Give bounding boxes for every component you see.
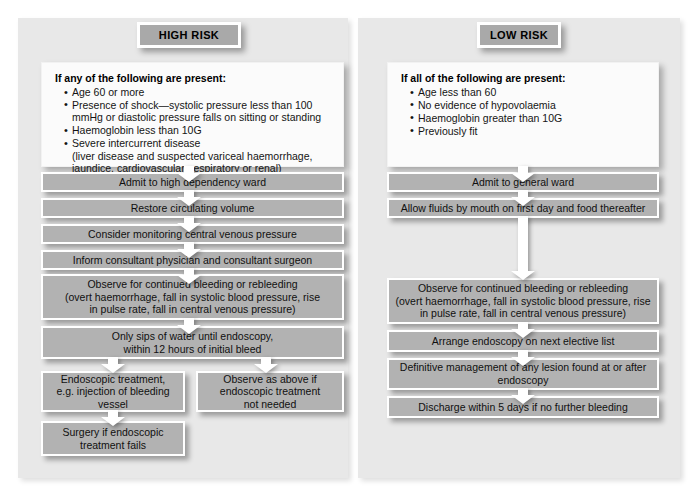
- criteria-box-high-risk: If any of the following are present: Age…: [41, 62, 344, 167]
- node-low-step-2: Observe for continued bleeding or reblee…: [387, 278, 659, 324]
- arrow-down-icon: [510, 166, 536, 182]
- arrow-down-icon: [510, 190, 536, 206]
- node-high-branch-left-0: Endoscopic treatment, e.g. injection of …: [41, 371, 185, 412]
- criteria-list-high: Age 60 or more Presence of shock—systoli…: [53, 86, 332, 175]
- criteria-box-low-risk: If all of the following are present: Age…: [387, 62, 659, 167]
- criteria-title-low: If all of the following are present:: [401, 72, 647, 85]
- criteria-item: Severe intercurrent disease: [64, 137, 332, 149]
- arrow-down-icon: [176, 190, 202, 206]
- flowchart-canvas: HIGH RISK If any of the following are pr…: [0, 0, 698, 496]
- criteria-item: Haemoglobin less than 10G: [64, 124, 332, 136]
- criteria-title-high: If any of the following are present:: [55, 72, 332, 85]
- node-high-branch-right-0: Observe as above if endoscopic treatment…: [196, 371, 344, 412]
- criteria-item: No evidence of hypovolaemia: [410, 99, 647, 111]
- arrow-down-icon: [176, 216, 202, 232]
- node-high-branch-left-1: Surgery if endoscopic treatment fails: [41, 421, 185, 456]
- arrow-down-icon: [176, 166, 202, 182]
- arrow-down-icon: [100, 410, 126, 426]
- arrow-down-long-icon: [510, 216, 536, 280]
- risk-header-high: HIGH RISK: [137, 22, 241, 48]
- arrow-down-icon: [510, 350, 536, 366]
- arrow-down-icon: [510, 322, 536, 338]
- arrow-down-icon-branch-left: [100, 357, 126, 373]
- arrow-down-icon: [176, 318, 202, 334]
- criteria-list-low: Age less than 60 No evidence of hypovola…: [399, 86, 647, 137]
- risk-header-low: LOW RISK: [477, 22, 561, 48]
- criteria-item: Presence of shock—systolic pressure less…: [64, 99, 332, 124]
- arrow-down-icon-branch-right: [253, 357, 279, 373]
- arrow-down-icon: [176, 268, 202, 284]
- criteria-item: Age 60 or more: [64, 86, 332, 98]
- arrow-down-icon: [176, 242, 202, 258]
- criteria-item: Age less than 60: [410, 86, 647, 98]
- criteria-item: Previously fit: [410, 125, 647, 137]
- arrow-down-icon: [510, 388, 536, 404]
- criteria-item: Haemoglobin greater than 10G: [410, 112, 647, 124]
